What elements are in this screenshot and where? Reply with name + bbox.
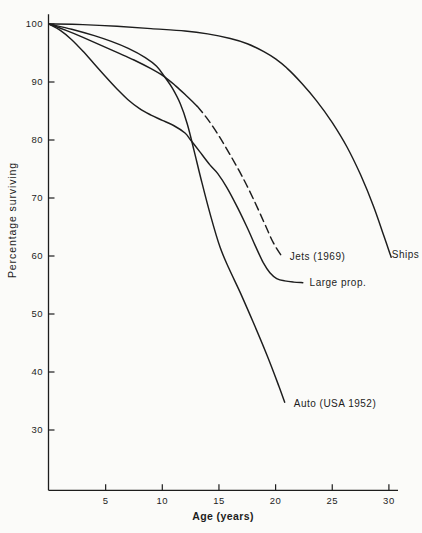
x-tick-label-30: 30 xyxy=(383,495,395,506)
x-tick-label-5: 5 xyxy=(103,495,109,506)
y-tick-label-40: 40 xyxy=(31,366,43,377)
series-label-auto: Auto (USA 1952) xyxy=(294,398,377,409)
y-axis-title: Percentage surviving xyxy=(6,162,18,278)
y-tick-label-50: 50 xyxy=(31,308,43,319)
y-tick-label-80: 80 xyxy=(31,134,43,145)
x-tick-label-25: 25 xyxy=(326,495,338,506)
x-axis-title: Age (years) xyxy=(192,510,254,522)
y-tick-label-70: 70 xyxy=(31,192,43,203)
line-chart: 10090807060504030 51015202530 ShipsJets … xyxy=(0,0,422,533)
series-label-jets-projected: Jets (1969) xyxy=(290,251,346,262)
curve-auto xyxy=(49,24,285,402)
x-tick-label-20: 20 xyxy=(270,495,282,506)
x-axis-ticks: 51015202530 xyxy=(103,484,395,506)
x-tick-label-15: 15 xyxy=(213,495,225,506)
series-label-large-prop: Large prop. xyxy=(310,277,367,288)
axes xyxy=(49,14,399,490)
survival-curves xyxy=(49,24,391,402)
series-labels: ShipsJets (1969)Large prop.Auto (USA 195… xyxy=(290,249,419,408)
y-axis-ticks: 10090807060504030 xyxy=(26,18,55,435)
curve-ships xyxy=(49,24,391,257)
y-tick-label-60: 60 xyxy=(31,250,43,261)
curve-large-prop xyxy=(49,24,303,283)
y-tick-label-90: 90 xyxy=(31,76,43,87)
survival-chart-figure: 10090807060504030 51015202530 ShipsJets … xyxy=(0,0,422,533)
y-tick-label-30: 30 xyxy=(31,424,43,435)
curve-jets-projected xyxy=(197,106,283,258)
x-tick-label-10: 10 xyxy=(157,495,169,506)
y-tick-label-100: 100 xyxy=(26,18,43,29)
series-label-ships: Ships xyxy=(392,249,420,260)
